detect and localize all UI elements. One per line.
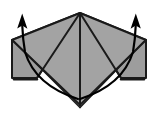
origami-diagram-figure: Origami folding step diagram Gray folded… (0, 0, 158, 114)
origami-diagram-canvas (0, 0, 158, 114)
